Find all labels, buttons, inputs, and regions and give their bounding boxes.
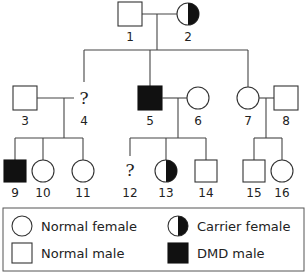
legend: Normal female Carrier female Normal male… — [3, 208, 304, 271]
generation-1: 1 2 — [118, 2, 199, 50]
individual-6-normal-female — [187, 87, 209, 109]
label-1: 1 — [126, 30, 134, 44]
label-4: 4 — [80, 114, 88, 128]
individual-8-normal-male — [274, 86, 298, 110]
individual-4-unknown: ? — [79, 88, 88, 108]
individual-3-normal-male — [13, 86, 37, 110]
legend-square-open-icon — [12, 243, 32, 263]
generation-2: ? 3 4 5 6 7 8 — [13, 86, 298, 138]
label-6: 6 — [194, 114, 202, 128]
individual-14-normal-male — [195, 160, 217, 182]
label-10: 10 — [35, 186, 50, 200]
label-9: 9 — [11, 186, 19, 200]
label-15: 15 — [246, 186, 261, 200]
legend-circle-half-icon — [168, 216, 188, 236]
individual-10-normal-female — [32, 160, 54, 182]
individual-11-normal-female — [72, 160, 94, 182]
legend-box — [3, 208, 304, 271]
label-16: 16 — [274, 186, 289, 200]
label-12: 12 — [122, 186, 137, 200]
legend-normal-female: Normal female — [41, 219, 137, 234]
individual-1-normal-male — [118, 2, 142, 26]
label-5: 5 — [146, 114, 154, 128]
individual-5-dmd-male — [138, 86, 162, 110]
label-3: 3 — [21, 114, 29, 128]
generation-3: ? 9 10 11 12 13 14 15 16 — [4, 160, 293, 200]
individual-16-normal-female — [271, 160, 293, 182]
label-8: 8 — [282, 114, 290, 128]
legend-carrier-female: Carrier female — [197, 219, 290, 234]
pedigree-diagram: 1 2 ? 3 4 5 6 7 8 — [0, 0, 307, 274]
label-2: 2 — [184, 30, 192, 44]
legend-dmd-male: DMD male — [197, 246, 265, 261]
label-7: 7 — [244, 114, 252, 128]
individual-13-carrier-female — [155, 160, 177, 182]
label-14: 14 — [198, 186, 213, 200]
label-13: 13 — [158, 186, 173, 200]
individual-15-normal-male — [243, 160, 265, 182]
individual-2-carrier-female — [177, 3, 199, 25]
label-11: 11 — [75, 186, 90, 200]
legend-normal-male: Normal male — [41, 246, 124, 261]
individual-12-unknown: ? — [125, 160, 134, 180]
individual-9-dmd-male — [4, 160, 26, 182]
legend-square-filled-icon — [168, 243, 188, 263]
legend-circle-open-icon — [12, 216, 32, 236]
individual-7-normal-female — [237, 87, 259, 109]
